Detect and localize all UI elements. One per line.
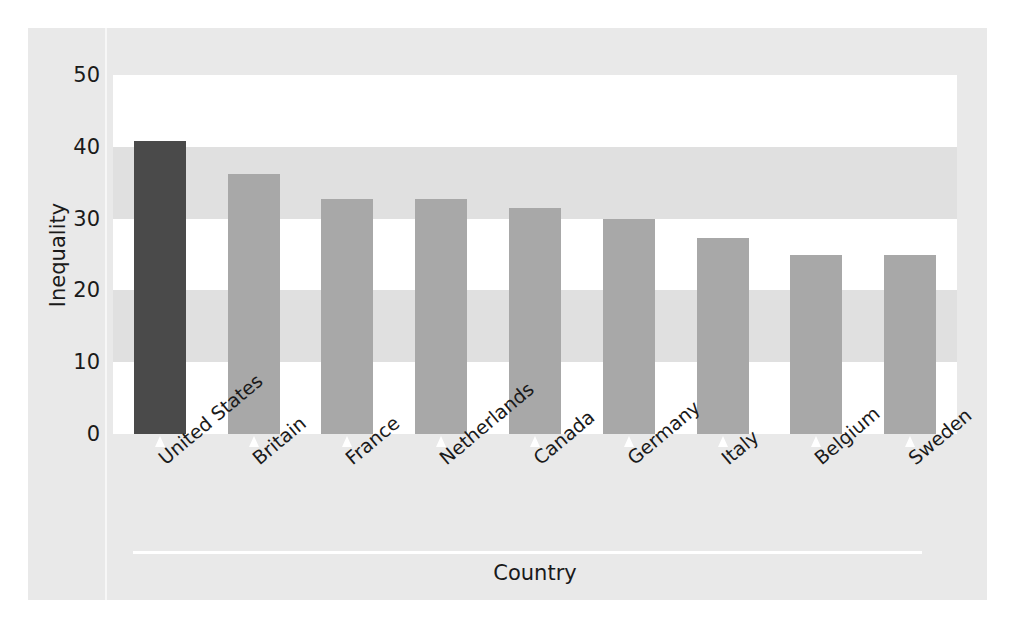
y-axis-title: Inequality bbox=[44, 75, 72, 434]
y-axis-title-text: Inequality bbox=[46, 202, 70, 306]
y-tick-label: 20 bbox=[73, 278, 100, 302]
y-tick-label: 30 bbox=[73, 207, 100, 231]
canvas-divider bbox=[105, 28, 107, 600]
y-tick-label: 40 bbox=[73, 135, 100, 159]
x-axis-rule bbox=[133, 551, 922, 554]
chart-figure: Inequality 01020304050 United StatesBrit… bbox=[0, 0, 1015, 627]
y-tick-label: 0 bbox=[87, 422, 100, 446]
y-tick-label: 10 bbox=[73, 350, 100, 374]
y-tick-label: 50 bbox=[73, 63, 100, 87]
x-axis-title: Country bbox=[113, 561, 957, 585]
